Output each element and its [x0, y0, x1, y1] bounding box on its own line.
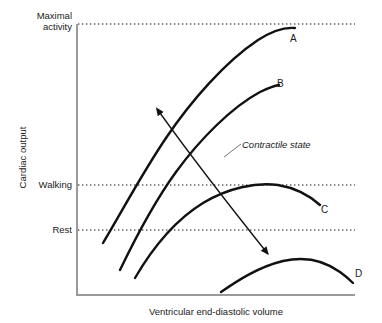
curve-c: [135, 184, 320, 278]
ytick-label-maximal-line2: activity: [43, 21, 72, 32]
chart-plot-area: [0, 0, 382, 323]
y-axis-title: Cardiac output: [17, 98, 28, 218]
contractile-state-leader-line: [224, 144, 241, 157]
ytick-label-rest: Rest: [12, 224, 72, 235]
curve-label-d: D: [355, 268, 362, 279]
ytick-label-maximal-line1: Maximal: [37, 10, 72, 21]
curve-label-b: B: [277, 78, 284, 89]
curve-label-a: A: [290, 33, 297, 44]
curve-a: [103, 28, 295, 243]
curve-label-c: C: [321, 204, 328, 215]
curve-b: [120, 85, 279, 270]
ytick-label-maximal-activity: Maximalactivity: [12, 10, 72, 32]
contractile-state-annotation: Contractile state: [242, 139, 311, 150]
curve-d: [221, 259, 353, 292]
x-axis-title: Ventricular end-diastolic volume: [77, 306, 355, 317]
contractile-state-arrow: [160, 113, 268, 254]
frank-starling-curve-figure: Maximalactivity Walking Rest Cardiac out…: [0, 0, 382, 323]
